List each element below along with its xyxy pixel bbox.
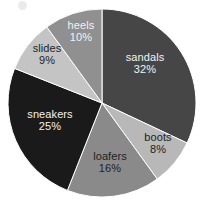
pie-chart-canvas [0,0,204,203]
pie-chart: sandals32%boots8%loafers16%sneakers25%sl… [0,0,204,203]
